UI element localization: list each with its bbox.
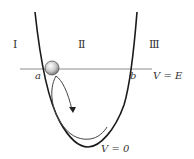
- trajectory-path: [52, 76, 107, 139]
- turning-point-b: b: [130, 70, 136, 81]
- trajectory-return: [56, 76, 72, 110]
- turning-point-a: a: [35, 70, 41, 81]
- region-label-3: Ⅲ: [149, 38, 160, 51]
- ball: [45, 61, 59, 75]
- arrow-down-icon: [69, 107, 76, 113]
- region-label-2: Ⅱ: [78, 38, 85, 51]
- region-label-1: I: [13, 38, 17, 51]
- potential-curve: [35, 12, 137, 147]
- ground-label: V = 0: [101, 143, 130, 154]
- energy-line-label: V = E: [153, 70, 183, 81]
- potential-well-diagram: I Ⅱ Ⅲ a b V = E V = 0: [0, 0, 194, 159]
